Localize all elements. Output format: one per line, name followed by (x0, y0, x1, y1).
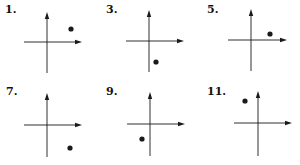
arrow-up-icon (148, 92, 152, 99)
arrow-right-icon (75, 123, 82, 127)
arrow-right-icon (75, 40, 82, 44)
arrow-up-icon (45, 12, 49, 19)
arrow-up-icon (249, 9, 253, 16)
plotted-point (139, 136, 144, 141)
plotted-point (242, 98, 247, 103)
arrow-up-icon (256, 91, 260, 98)
arrow-up-icon (45, 93, 49, 100)
arrow-right-icon (280, 38, 287, 42)
coordinate-plane (127, 92, 185, 156)
coordinate-plane (126, 10, 184, 72)
diagram-canvas (0, 0, 300, 165)
plotted-point (67, 145, 72, 150)
coordinate-plane (24, 12, 82, 73)
arrow-right-icon (178, 122, 185, 126)
arrow-up-icon (147, 10, 151, 17)
plotted-point (267, 31, 272, 36)
arrow-right-icon (285, 121, 292, 125)
plotted-point (153, 59, 158, 64)
coordinate-plane (228, 9, 287, 71)
arrow-right-icon (177, 39, 184, 43)
coordinate-plane (234, 91, 292, 156)
coordinate-plane (24, 93, 82, 157)
plotted-point (68, 26, 73, 31)
